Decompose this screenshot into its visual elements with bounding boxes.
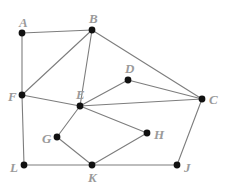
graph-vertex-d bbox=[125, 77, 132, 84]
graph-edge-b-c bbox=[92, 30, 202, 99]
graph-vertex-j bbox=[174, 162, 181, 169]
graph-edge-f-l bbox=[22, 95, 24, 165]
graph-edge-b-f bbox=[22, 30, 92, 95]
vertex-label-g: G bbox=[42, 132, 51, 145]
graph-edge-g-k bbox=[57, 137, 92, 165]
vertex-label-c: C bbox=[209, 93, 218, 106]
graph-edge-h-k bbox=[92, 133, 147, 165]
graph-edge-e-d bbox=[80, 80, 128, 106]
vertices-group bbox=[19, 27, 206, 169]
graph-vertex-b bbox=[89, 27, 96, 34]
graph-edge-e-h bbox=[80, 106, 147, 133]
vertex-label-b: B bbox=[89, 12, 98, 25]
vertex-label-e: E bbox=[76, 88, 85, 101]
graph-vertex-l bbox=[21, 162, 28, 169]
vertex-label-h: H bbox=[154, 128, 164, 141]
graph-vertex-g bbox=[54, 134, 61, 141]
graph-edge-a-b bbox=[22, 30, 92, 33]
graph-canvas bbox=[0, 0, 228, 186]
vertex-label-k: K bbox=[88, 171, 97, 184]
vertex-label-j: J bbox=[184, 161, 191, 174]
graph-diagram: ABCDEFGHJKL bbox=[0, 0, 228, 186]
graph-vertex-k bbox=[89, 162, 96, 169]
graph-edge-c-j bbox=[177, 99, 202, 165]
graph-edge-d-c bbox=[128, 80, 202, 99]
vertex-label-f: F bbox=[8, 90, 17, 103]
graph-edge-e-c bbox=[80, 99, 202, 106]
graph-vertex-a bbox=[19, 30, 26, 37]
graph-vertex-f bbox=[19, 92, 26, 99]
vertex-label-l: L bbox=[10, 161, 18, 174]
graph-edge-e-g bbox=[57, 106, 80, 137]
graph-vertex-e bbox=[77, 103, 84, 110]
graph-vertex-c bbox=[199, 96, 206, 103]
graph-edge-f-e bbox=[22, 95, 80, 106]
vertex-label-d: D bbox=[125, 62, 134, 75]
graph-vertex-h bbox=[144, 130, 151, 137]
vertex-label-a: A bbox=[19, 16, 28, 29]
